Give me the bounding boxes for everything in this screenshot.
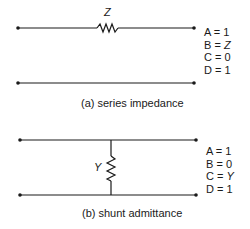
terminal-dot [194,193,198,197]
terminal-dot [192,26,196,30]
shunt-resistor-icon [107,156,115,181]
param-b-row: B = Z [204,39,231,52]
param-c-row: C = 0 [204,51,231,64]
impedance-label: Z [104,6,111,19]
param-a-row: A = 1 [204,26,231,39]
param-b-row: B = 0 [206,158,234,171]
series-impedance-circuit [18,24,194,83]
terminal-dot [194,138,198,142]
param-c-row: C = Y [206,170,234,183]
caption-a: (a) series impedance [81,97,184,109]
admittance-label: Y [94,161,101,174]
param-a-row: A = 1 [206,145,234,158]
series-resistor-icon [97,24,118,32]
abcd-params-a: A = 1 B = Z C = 0 D = 1 [204,26,231,76]
terminal-dot [18,138,22,142]
param-d-row: D = 1 [206,183,234,196]
terminal-dot [18,193,22,197]
terminal-dot [16,26,20,30]
terminal-dot [16,81,20,85]
param-d-row: D = 1 [204,64,231,77]
shunt-admittance-circuit [20,140,196,195]
terminal-dot [192,81,196,85]
caption-b: (b) shunt admittance [82,207,182,219]
abcd-params-b: A = 1 B = 0 C = Y D = 1 [206,145,234,195]
